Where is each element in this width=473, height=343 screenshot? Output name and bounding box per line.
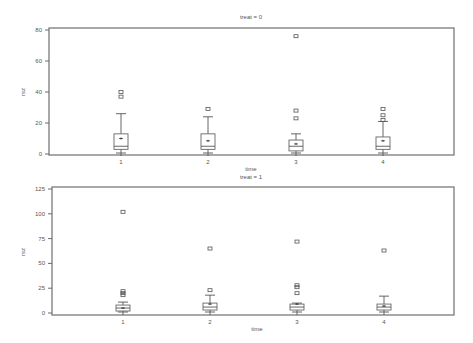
- outlier-point: [294, 117, 298, 120]
- panel-treat-1: treat = 1 time rsz 02550751001251234: [20, 174, 454, 332]
- y-axis-label: rsz: [20, 248, 26, 256]
- panel-title: treat = 1: [240, 174, 263, 180]
- x-tick-label: 1: [119, 159, 123, 165]
- y-tick-label: 20: [35, 120, 42, 126]
- iqr-box: [289, 140, 303, 151]
- box-3: [289, 35, 303, 156]
- y-tick-label: 100: [35, 211, 46, 217]
- outlier-point: [121, 290, 125, 293]
- box-4: [376, 108, 390, 156]
- outlier-point: [119, 91, 123, 94]
- outlier-point: [121, 210, 125, 213]
- y-tick-label: 0: [39, 151, 43, 157]
- box-2: [203, 247, 217, 315]
- iqr-box: [114, 134, 128, 150]
- y-tick-label: 25: [38, 285, 45, 291]
- y-tick-label: 125: [35, 186, 46, 192]
- outlier-point: [381, 114, 385, 117]
- outlier-point: [208, 247, 212, 250]
- y-axis-label: rsz: [20, 88, 26, 96]
- x-tick-label: 4: [382, 319, 386, 325]
- outlier-point: [295, 292, 299, 295]
- outlier-point: [295, 240, 299, 243]
- y-tick-label: 0: [42, 310, 46, 316]
- boxplot-figure: treat = 0 time rsz 0204060801234 treat =…: [0, 0, 473, 343]
- outlier-point: [381, 118, 385, 121]
- outlier-point: [382, 249, 386, 252]
- outlier-point: [294, 109, 298, 112]
- x-tick-label: 3: [295, 319, 299, 325]
- y-tick-label: 40: [35, 89, 42, 95]
- box-2: [201, 108, 215, 156]
- plot-frame: [52, 187, 454, 315]
- iqr-box: [376, 137, 390, 149]
- plot-frame: [49, 28, 454, 155]
- x-tick-label: 1: [121, 319, 125, 325]
- outlier-point: [206, 108, 210, 111]
- outlier-point: [121, 294, 125, 297]
- y-tick-label: 80: [35, 27, 42, 33]
- y-tick-label: 50: [38, 260, 45, 266]
- x-tick-label: 2: [206, 159, 210, 165]
- box-1: [116, 210, 130, 315]
- panel-title: treat = 0: [240, 14, 263, 20]
- x-tick-label: 4: [381, 159, 385, 165]
- y-tick-label: 75: [38, 236, 45, 242]
- outlier-point: [119, 95, 123, 98]
- outlier-point: [208, 289, 212, 292]
- x-axis-label: time: [251, 326, 263, 332]
- x-axis-label: time: [245, 166, 257, 172]
- outlier-point: [381, 108, 385, 111]
- y-tick-label: 60: [35, 58, 42, 64]
- box-4: [377, 249, 391, 315]
- x-tick-label: 3: [294, 159, 298, 165]
- x-tick-label: 2: [208, 319, 212, 325]
- box-1: [114, 91, 128, 157]
- box-3: [290, 240, 304, 315]
- outlier-point: [295, 284, 299, 287]
- panel-treat-0: treat = 0 time rsz 0204060801234: [20, 14, 454, 172]
- outlier-point: [121, 292, 125, 295]
- outlier-point: [294, 35, 298, 38]
- outlier-point: [295, 286, 299, 289]
